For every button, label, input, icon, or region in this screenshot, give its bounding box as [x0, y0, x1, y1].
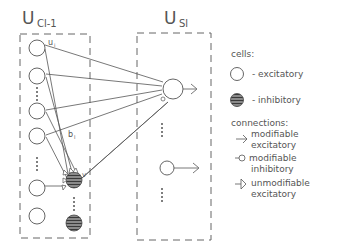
- s-cell-lower: [160, 161, 199, 175]
- legend-inhibitory-icon: [231, 94, 244, 107]
- svg-text:unmodifiable: unmodifiable: [251, 178, 310, 188]
- svg-text:l: l: [74, 134, 75, 140]
- legend-unmodifiable-excitatory-icon: [235, 179, 246, 189]
- layer-right-title: U Sl: [164, 8, 188, 29]
- excitatory-cell: [29, 128, 45, 144]
- inhibitory-cell-v: [66, 172, 82, 188]
- svg-text:U: U: [22, 8, 34, 28]
- svg-text:connections:: connections:: [231, 118, 288, 128]
- svg-text:U: U: [164, 8, 176, 28]
- excitatory-cell: [29, 40, 45, 56]
- svg-text:inhibitory: inhibitory: [251, 164, 294, 174]
- input-cells: [29, 40, 45, 224]
- svg-text:b: b: [68, 130, 73, 139]
- connection-lines: [45, 45, 168, 186]
- excitatory-cell: [29, 180, 45, 196]
- svg-text:excitatory: excitatory: [251, 189, 297, 199]
- excitatory-cell: [29, 208, 45, 224]
- excitatory-cell: [29, 103, 45, 119]
- layer-right-box: [137, 33, 211, 240]
- svg-text:Cl-1: Cl-1: [37, 18, 57, 29]
- svg-text:cells:: cells:: [231, 49, 254, 59]
- excitatory-cell: [29, 68, 45, 84]
- legend-excitatory-icon: [231, 68, 244, 81]
- layer-left-title: U Cl-1: [22, 8, 57, 29]
- svg-text:modifiable: modifiable: [249, 153, 297, 163]
- svg-text:Sl: Sl: [179, 18, 188, 29]
- neocognitron-diagram: U Cl-1 U Sl: [0, 0, 351, 250]
- svg-text:u: u: [48, 38, 53, 47]
- inhibitory-cell: [66, 215, 82, 231]
- svg-text:- inhibitory: - inhibitory: [252, 95, 301, 105]
- legend: cells: - excitatory - inhibitory connect…: [231, 49, 311, 199]
- svg-text:excitatory: excitatory: [251, 140, 297, 150]
- svg-text:i: i: [54, 42, 55, 48]
- svg-text:- excitatory: - excitatory: [252, 69, 304, 79]
- legend-modifiable-excitatory-icon: [236, 135, 247, 143]
- s-cell-top: [161, 79, 197, 101]
- svg-text:modifiable: modifiable: [251, 129, 299, 139]
- legend-modifiable-inhibitory-icon: [235, 155, 245, 161]
